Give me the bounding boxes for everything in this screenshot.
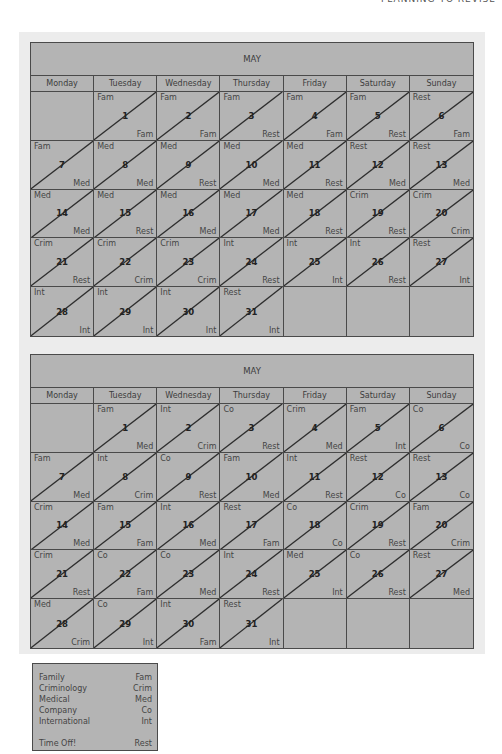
day-cell: Crim14Med xyxy=(31,502,94,551)
day-cell: Rest13Co xyxy=(410,453,473,502)
morning-subject: Rest xyxy=(413,239,430,248)
morning-subject: Int xyxy=(287,239,298,248)
morning-subject: Rest xyxy=(350,454,367,463)
afternoon-subject: Rest xyxy=(325,179,342,188)
day-number: 8 xyxy=(122,471,128,481)
morning-subject: Fam xyxy=(350,93,367,102)
afternoon-subject: Rest xyxy=(388,130,405,139)
morning-subject: Co xyxy=(97,600,107,609)
morning-subject: Int xyxy=(160,405,171,414)
day-cell: Fam4Fam xyxy=(284,92,347,141)
morning-subject: Int xyxy=(223,239,234,248)
afternoon-subject: Crim xyxy=(134,491,153,500)
legend-code: Med xyxy=(135,694,152,705)
morning-subject: Int xyxy=(350,239,361,248)
afternoon-subject: Co xyxy=(395,491,405,500)
weekday-header: Saturday xyxy=(347,388,410,403)
morning-subject: Rest xyxy=(223,600,240,609)
legend-label: Family xyxy=(39,672,65,683)
legend-row: InternationalInt xyxy=(39,716,152,727)
morning-subject: Crim xyxy=(34,503,53,512)
day-cell: Int24Rest xyxy=(220,238,283,287)
morning-subject: Rest xyxy=(350,142,367,151)
morning-subject: Med xyxy=(223,142,240,151)
weekday-header: Monday xyxy=(31,76,94,91)
morning-subject: Med xyxy=(223,191,240,200)
day-cell: Med25Int xyxy=(284,550,347,599)
morning-subject: Med xyxy=(287,142,304,151)
afternoon-subject: Med xyxy=(73,179,90,188)
afternoon-subject: Int xyxy=(143,638,154,647)
afternoon-subject: Rest xyxy=(262,442,279,451)
day-cell: Med18Rest xyxy=(284,190,347,239)
day-number: 20 xyxy=(435,520,447,530)
morning-subject: Med xyxy=(160,191,177,200)
day-cell: Int29Int xyxy=(94,287,157,336)
afternoon-subject: Crim xyxy=(198,442,217,451)
morning-subject: Rest xyxy=(413,551,430,560)
morning-subject: Rest xyxy=(223,503,240,512)
empty-day-cell xyxy=(347,287,410,336)
weekday-header-row: MondayTuesdayWednesdayThursdayFridaySatu… xyxy=(31,388,473,404)
afternoon-subject: Fam xyxy=(200,130,217,139)
afternoon-subject: Rest xyxy=(388,227,405,236)
day-cell: Fam10Med xyxy=(220,453,283,502)
subject-legend: FamilyFamCriminologyCrimMedicalMedCompan… xyxy=(32,663,158,751)
weekday-header: Thursday xyxy=(220,388,283,403)
day-cell: Fam20Crim xyxy=(410,502,473,551)
day-number: 10 xyxy=(246,471,258,481)
legend-row: MedicalMed xyxy=(39,694,152,705)
morning-subject: Fam xyxy=(34,142,51,151)
morning-subject: Rest xyxy=(413,142,430,151)
weekday-header: Wednesday xyxy=(157,76,220,91)
day-number: 26 xyxy=(372,569,384,579)
day-cell: Fam3Rest xyxy=(220,92,283,141)
day-cell: Crim4Med xyxy=(284,404,347,453)
weekday-header: Saturday xyxy=(347,76,410,91)
morning-subject: Fam xyxy=(97,503,114,512)
afternoon-subject: Int xyxy=(143,326,154,335)
afternoon-subject: Crim xyxy=(71,638,90,647)
day-number: 27 xyxy=(435,257,447,267)
day-cell: Rest12Co xyxy=(347,453,410,502)
day-number: 20 xyxy=(435,208,447,218)
afternoon-subject: Med xyxy=(389,179,406,188)
day-number: 6 xyxy=(438,110,444,120)
afternoon-subject: Int xyxy=(332,588,343,597)
weekday-header: Thursday xyxy=(220,76,283,91)
afternoon-subject: Med xyxy=(453,588,470,597)
day-number: 14 xyxy=(56,208,68,218)
day-number: 23 xyxy=(182,569,194,579)
afternoon-subject: Med xyxy=(263,491,280,500)
day-number: 17 xyxy=(246,208,258,218)
morning-subject: Co xyxy=(350,551,360,560)
day-number: 15 xyxy=(119,208,131,218)
afternoon-subject: Med xyxy=(73,227,90,236)
weekday-header: Sunday xyxy=(410,76,473,91)
morning-subject: Crim xyxy=(160,239,179,248)
legend-row: FamilyFam xyxy=(39,672,152,683)
day-number: 18 xyxy=(309,520,321,530)
day-cell: Fam7Med xyxy=(31,141,94,190)
morning-subject: Rest xyxy=(413,93,430,102)
morning-subject: Crim xyxy=(287,405,306,414)
afternoon-subject: Fam xyxy=(263,539,280,548)
legend-label: Criminology xyxy=(39,683,87,694)
day-cell: Fam5Int xyxy=(347,404,410,453)
afternoon-subject: Med xyxy=(136,179,153,188)
afternoon-subject: Med xyxy=(263,179,280,188)
day-number: 4 xyxy=(312,110,318,120)
day-cell: Co23Med xyxy=(157,550,220,599)
morning-subject: Co xyxy=(223,405,233,414)
afternoon-subject: Rest xyxy=(73,588,90,597)
weekday-header: Friday xyxy=(284,388,347,403)
day-cell: Rest27Int xyxy=(410,238,473,287)
day-number: 21 xyxy=(56,257,68,267)
day-cell: Med10Med xyxy=(220,141,283,190)
day-number: 28 xyxy=(56,306,68,316)
legend-label: International xyxy=(39,716,90,727)
morning-subject: Med xyxy=(34,191,51,200)
day-cell: Med11Rest xyxy=(284,141,347,190)
day-number: 11 xyxy=(309,471,321,481)
morning-subject: Med xyxy=(287,191,304,200)
